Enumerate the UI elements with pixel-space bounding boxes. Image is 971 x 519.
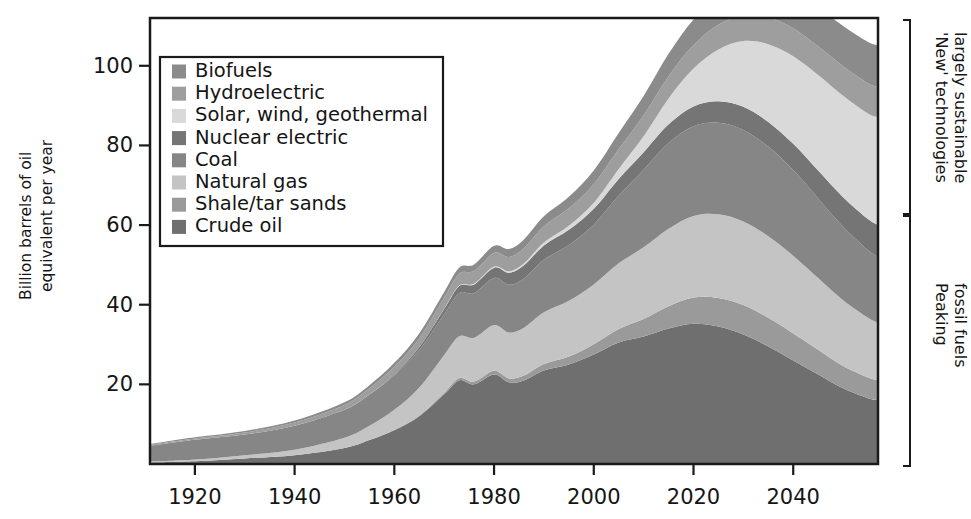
x-tick-label: 2040 [767,485,820,509]
x-tick-label: 1960 [368,485,421,509]
y-axis-label: Billion barrels of oil equivalent per ye… [17,139,56,300]
y-tick-label: 100 [93,54,133,78]
y-tick-label: 60 [106,213,133,237]
legend-swatch [172,87,186,101]
x-tick-label: 2000 [567,485,620,509]
legend-label: Crude oil [195,214,282,237]
legend-label: Coal [195,148,238,171]
y-axis-ticks: 20406080100 [93,54,150,397]
x-tick-label: 1980 [467,485,520,509]
legend-swatch [172,109,186,123]
legend-label: Shale/tar sands [195,192,347,215]
legend-swatch [172,131,186,145]
legend-swatch [172,65,186,79]
x-tick-label: 2020 [667,485,720,509]
y-tick-label: 80 [106,133,133,157]
legend-label: Solar, wind, geothermal [195,103,428,126]
x-axis-ticks: 1920194019601980200020202040 [168,464,820,509]
legend-swatch [172,176,186,190]
annotation-upper-line2: largely sustainable [951,32,970,183]
bracket-upper [903,20,910,214]
annotation-lower-line1: Peaking [932,283,951,346]
chart-canvas: Billion barrels of oil equivalent per ye… [0,0,971,519]
legend-label: Biofuels [195,59,273,82]
annotation-upper-line1: 'New' technologies [932,32,951,183]
y-tick-label: 20 [106,372,133,396]
y-tick-label: 40 [106,293,133,317]
legend-swatch [172,220,186,234]
bracket-annotations: 'New' technologies largely sustainable P… [903,20,970,466]
legend-swatch [172,153,186,167]
x-tick-label: 1940 [268,485,321,509]
chart-legend: BiofuelsHydroelectricSolar, wind, geothe… [160,57,443,246]
legend-label: Nuclear electric [195,126,348,149]
x-tick-label: 1920 [168,485,221,509]
y-axis-label-line2: equivalent per year [38,139,56,292]
legend-label: Hydroelectric [195,81,325,104]
y-axis-label-line1: Billion barrels of oil [17,152,35,300]
annotation-lower-line2: fossil fuels [951,283,970,367]
legend-label: Natural gas [195,170,308,193]
bracket-lower [903,216,910,466]
legend-swatch [172,198,186,212]
stacked-area-chart-figure: Billion barrels of oil equivalent per ye… [0,0,971,519]
